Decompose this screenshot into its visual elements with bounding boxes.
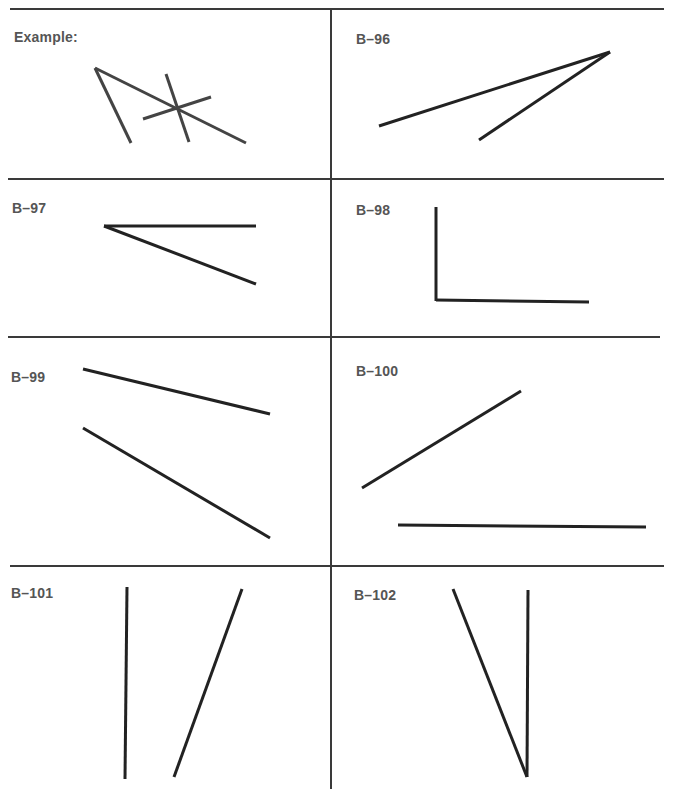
figure-b-98 — [436, 207, 589, 302]
line-segment — [125, 587, 127, 779]
line-segment — [83, 428, 270, 538]
figure-b-99 — [83, 369, 270, 538]
line-segment — [479, 52, 610, 140]
line-segment — [398, 525, 646, 527]
line-segment — [527, 590, 528, 777]
line-segment — [83, 369, 270, 414]
line-segment — [95, 68, 131, 143]
line-segment — [143, 97, 211, 119]
figure-b-101 — [125, 587, 242, 779]
line-figures-canvas — [0, 0, 675, 789]
figure-b-97 — [104, 226, 256, 284]
line-segment — [104, 226, 256, 284]
line-segment — [436, 300, 589, 302]
figure-b-100 — [362, 391, 646, 527]
line-segment — [453, 589, 527, 777]
figure-example — [95, 68, 246, 143]
figure-b-96 — [379, 52, 610, 140]
figure-b-102 — [453, 589, 528, 777]
line-segment — [174, 589, 242, 777]
line-segment — [362, 391, 521, 488]
line-segment — [95, 68, 246, 143]
line-segment — [379, 52, 610, 126]
